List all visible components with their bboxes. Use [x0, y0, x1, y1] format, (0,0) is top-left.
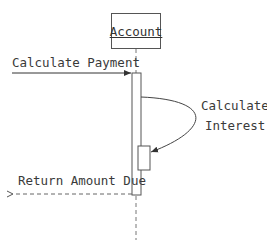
lifeline-object-box: Account [111, 13, 161, 49]
nested-activation-bar [138, 146, 150, 170]
message-label-calculate-payment: Calculate Payment [12, 55, 140, 70]
lifeline-object-label: Account [110, 24, 163, 39]
message-label-return-amount: Return Amount Due [18, 173, 146, 188]
message-label-calculate-interest-2: Interest [205, 118, 265, 133]
calculate-interest-arrow [141, 97, 196, 152]
message-label-calculate-interest-1: Calculate [201, 98, 267, 113]
